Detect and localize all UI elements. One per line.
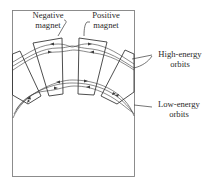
leader-high-1 <box>132 55 152 59</box>
label-negative-line2: magnet <box>24 21 72 31</box>
label-negative-magnet: Negative magnet <box>24 11 72 30</box>
low-energy-orbits <box>13 80 134 118</box>
label-high-line2: orbits <box>150 60 210 70</box>
ffag-magnet-orbit-diagram: Negative magnet Positive magnet High-ene… <box>0 0 213 185</box>
label-positive-magnet: Positive magnet <box>86 11 126 30</box>
high-energy-orbits <box>13 44 134 70</box>
label-high-energy-orbits: High-energy orbits <box>150 50 210 69</box>
label-low-energy-orbits: Low-energy orbits <box>150 100 208 119</box>
label-low-line2: orbits <box>150 110 208 120</box>
label-leader-lines <box>58 20 152 107</box>
label-positive-line2: magnet <box>86 21 126 31</box>
frame-border <box>13 11 135 177</box>
magnet-left-outer <box>13 51 42 104</box>
